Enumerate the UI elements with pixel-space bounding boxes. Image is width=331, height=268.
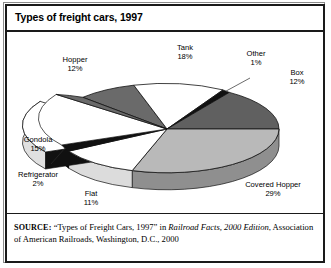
pie-label-box-name: Box <box>277 68 317 77</box>
source-label: SOURCE: <box>14 223 51 232</box>
source-note: SOURCE: “Types of Freight Cars, 1997” in… <box>14 222 314 245</box>
pie-label-tank: Tank 18% <box>163 43 207 62</box>
pie-label-other-name: Other <box>236 49 276 58</box>
pie-label-refrigerator: Refrigerator 2% <box>7 170 69 189</box>
pie-label-gondola: Gondola 15% <box>12 135 64 154</box>
pie-label-refrigerator-name: Refrigerator <box>7 170 69 179</box>
source-quoted-title: “Types of Freight Cars, 1997” <box>54 222 158 232</box>
pie-label-flat-value: 11% <box>71 198 111 207</box>
source-divider-rule <box>7 213 323 214</box>
pie-label-covered-hopper-name: Covered Hopper <box>231 180 315 189</box>
pie-label-box-value: 12% <box>277 77 317 86</box>
source-publication: Railroad Facts, 2000 Edition <box>168 222 268 232</box>
pie-label-hopper-value: 12% <box>51 64 99 73</box>
pie-label-covered-hopper: Covered Hopper 29% <box>231 180 315 199</box>
source-comma: , <box>269 222 271 232</box>
figure-panel: Types of freight cars, 1997 <box>0 0 331 268</box>
pie-label-refrigerator-value: 2% <box>7 179 69 188</box>
pie-label-hopper: Hopper 12% <box>51 55 99 74</box>
leader-line-other <box>226 78 250 91</box>
figure-title: Types of freight cars, 1997 <box>15 11 143 23</box>
pie-label-hopper-name: Hopper <box>51 55 99 64</box>
pie-chart-area: Tank 18% Other 1% Box 12% Covered Hopper… <box>7 32 323 212</box>
pie-label-flat-name: Flat <box>71 189 111 198</box>
pie-label-box: Box 12% <box>277 68 317 87</box>
pie-label-flat: Flat 11% <box>71 189 111 208</box>
source-connector: in <box>160 222 167 232</box>
pie-label-gondola-value: 15% <box>12 144 64 153</box>
pie-label-other-value: 1% <box>236 58 276 67</box>
pie-label-tank-value: 18% <box>163 52 207 61</box>
pie-label-other: Other 1% <box>236 49 276 68</box>
pie-label-covered-hopper-value: 29% <box>231 189 315 198</box>
pie-label-tank-name: Tank <box>163 43 207 52</box>
pie-label-gondola-name: Gondola <box>12 135 64 144</box>
